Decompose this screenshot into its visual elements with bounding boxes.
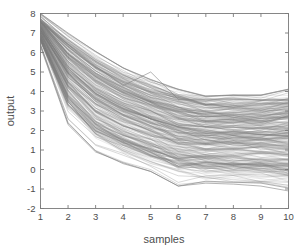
x-tick-label: 7 [203, 211, 208, 222]
x-tick-label: 9 [258, 211, 263, 222]
x-tick-label: 2 [65, 211, 70, 222]
y-tick-label: 3 [30, 105, 35, 116]
line-chart: 12345678910 -2-1012345678 samples output [0, 0, 307, 252]
y-axis-label: output [4, 96, 16, 127]
x-tick-label: 10 [283, 211, 294, 222]
y-tick-label: 1 [30, 144, 35, 155]
y-tick-label: 8 [30, 8, 35, 19]
y-tick-label: 0 [30, 164, 35, 175]
y-tick-label: 2 [30, 125, 35, 136]
x-tick-label: 4 [121, 211, 126, 222]
y-tick-label: -2 [27, 203, 35, 214]
y-tick-label: 6 [30, 47, 35, 58]
y-tick-label: -1 [27, 183, 35, 194]
x-tick-label: 6 [176, 211, 181, 222]
x-tick-label: 5 [148, 211, 153, 222]
x-tick-label: 3 [93, 211, 98, 222]
x-tick-label: 8 [231, 211, 236, 222]
y-tick-label: 4 [30, 86, 35, 97]
x-axis-label: samples [144, 233, 185, 245]
y-tick-label: 7 [30, 27, 35, 38]
y-tick-label: 5 [30, 66, 35, 77]
x-tick-label: 1 [38, 211, 43, 222]
figure-container: 12345678910 -2-1012345678 samples output [0, 0, 307, 252]
